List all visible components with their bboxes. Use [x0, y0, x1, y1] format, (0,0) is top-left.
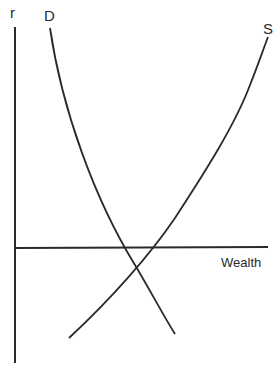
diagram-canvas: [0, 0, 279, 366]
supply-curve: [69, 37, 268, 338]
demand-curve: [50, 28, 175, 334]
supply-curve-label: S: [263, 20, 273, 37]
x-axis-line: [15, 247, 268, 248]
x-axis-label: Wealth: [221, 255, 261, 270]
demand-curve-label: D: [44, 7, 55, 24]
y-axis-label: r: [10, 4, 15, 21]
